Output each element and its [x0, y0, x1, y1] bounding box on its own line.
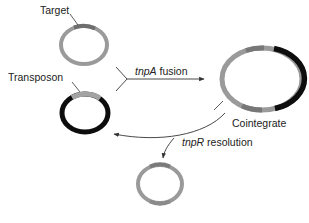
target-label: Target	[40, 5, 69, 16]
target-site-segment	[74, 26, 95, 29]
cointegrate-site-bottom	[242, 106, 262, 110]
cointegrate-label-leader	[214, 101, 223, 110]
resolution-text: resolution	[204, 136, 252, 148]
transposon-label-leader	[72, 82, 80, 92]
diagram-canvas: Target Transposon tnpA fusion Cointegrat…	[0, 0, 309, 223]
cointegrate-plasmid	[222, 48, 304, 110]
fusion-label: tnpA fusion	[135, 66, 188, 77]
tnpR-gene-label: tnpR	[182, 136, 204, 148]
cointegrate-site-top	[246, 48, 264, 51]
product-site-segment	[150, 164, 170, 166]
fusion-text: fusion	[157, 65, 188, 77]
target-label-leader	[70, 14, 78, 25]
diagram-graphics	[0, 0, 309, 223]
resolution-label: tnpR resolution	[182, 137, 253, 148]
transposon-plasmid	[62, 94, 108, 132]
transposon-label: Transposon	[8, 72, 63, 83]
target-plasmid	[61, 26, 107, 64]
product-plasmid	[138, 164, 182, 203]
tnpA-gene-label: tnpA	[135, 65, 157, 77]
transposon-site-segment	[72, 94, 100, 98]
cointegrate-label: Cointegrate	[232, 118, 286, 129]
